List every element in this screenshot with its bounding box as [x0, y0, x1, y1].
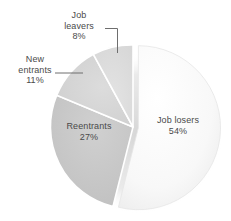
slice-label-job-losers-name: Job losers: [142, 115, 214, 126]
pie-chart-figure: Job leavers 8% New entrants 11% Reentran…: [0, 0, 231, 221]
pie-chart-canvas: [0, 0, 231, 221]
slice-label-job-leavers: Job leavers 8%: [48, 10, 110, 42]
slice-label-job-losers: Job losers 54%: [142, 115, 214, 136]
slice-label-new-entrants-line2: entrants: [4, 65, 66, 76]
slice-label-reentrants-name: Reentrants: [52, 121, 126, 132]
slice-label-new-entrants: New entrants 11%: [4, 54, 66, 86]
slice-value-job-leavers: 8%: [48, 31, 110, 42]
slice-value-reentrants: 27%: [52, 132, 126, 143]
slice-label-new-entrants-line1: New: [4, 54, 66, 65]
slice-label-job-leavers-line1: Job: [48, 10, 110, 21]
slice-label-job-leavers-line2: leavers: [48, 21, 110, 32]
slice-label-reentrants: Reentrants 27%: [52, 121, 126, 142]
slice-value-job-losers: 54%: [142, 126, 214, 137]
slice-value-new-entrants: 11%: [4, 75, 66, 86]
